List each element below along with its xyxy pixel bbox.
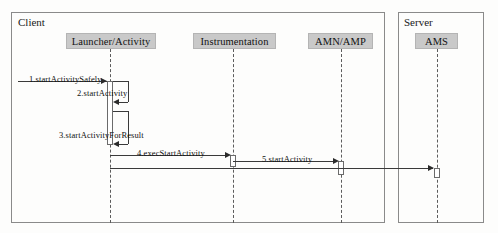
- lifeline-instrumentation: [233, 49, 234, 223]
- message-4-label: 4.execStartActivity: [137, 148, 205, 158]
- lifeline-ams: [437, 49, 438, 223]
- lifeline-amn-amp: [341, 49, 342, 223]
- message-2-segment-right: [128, 81, 129, 102]
- message-3-segment-top: [113, 111, 128, 112]
- participant-instrumentation[interactable]: Instrumentation: [193, 33, 276, 49]
- participant-ams[interactable]: AMS: [415, 33, 458, 49]
- message-6-arrowhead: [428, 165, 434, 171]
- participant-launcher-activity[interactable]: Launcher/Activity: [66, 33, 156, 49]
- message-3-segment-bottom: [119, 144, 128, 145]
- message-2-label: 2.startActivity: [77, 88, 127, 98]
- frame-server-label: Server: [404, 16, 433, 28]
- message-2-arrowhead: [113, 99, 119, 105]
- message-6-line: [110, 168, 433, 169]
- message-3-arrowhead: [113, 141, 119, 147]
- message-1-label: 1.startActivitySafely: [29, 74, 102, 84]
- message-5-arrowhead: [333, 158, 339, 164]
- sequence-diagram-canvas: Client Server Launcher/Activity Instrume…: [0, 0, 498, 233]
- message-2-segment-bottom: [119, 102, 128, 103]
- message-5-label: 5.startActivity: [262, 154, 312, 164]
- message-4-arrowhead: [225, 152, 231, 158]
- activation-bar-ams: [434, 168, 440, 178]
- message-3-label: 3.startActivityForResult: [59, 130, 144, 140]
- message-2-segment-top: [113, 81, 128, 82]
- participant-amn-amp[interactable]: AMN/AMP: [308, 33, 373, 49]
- frame-client-label: Client: [18, 16, 45, 28]
